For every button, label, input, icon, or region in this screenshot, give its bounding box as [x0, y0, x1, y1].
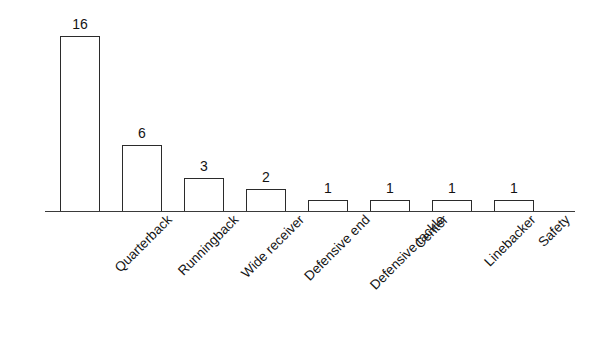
bar	[246, 189, 286, 211]
x-tick-label: Wide receiver	[238, 212, 307, 281]
x-tick-label: Quarterback	[112, 212, 175, 275]
bar-value-label: 16	[50, 17, 110, 31]
bar-value-label: 1	[360, 181, 420, 195]
bar	[60, 36, 100, 211]
bar-value-label: 6	[112, 126, 172, 140]
bar-value-label: 1	[422, 181, 482, 195]
bar-value-label: 1	[298, 181, 358, 195]
bar	[494, 200, 534, 211]
bar	[432, 200, 472, 211]
x-axis-tick-labels: QuarterbackRunningbackWide receiverDefen…	[0, 212, 593, 347]
bar-value-label: 3	[174, 159, 234, 173]
bar	[184, 178, 224, 211]
bar	[122, 145, 162, 211]
bar-chart: 166321111 QuarterbackRunningbackWide rec…	[0, 0, 593, 347]
bar	[308, 200, 348, 211]
bar-value-label: 2	[236, 170, 296, 184]
x-tick-label: Linebacker	[481, 212, 538, 269]
bar	[370, 200, 410, 211]
bar-value-label: 1	[484, 181, 544, 195]
plot-area: 166321111	[0, 0, 593, 212]
x-tick-label: Safety	[535, 212, 573, 250]
x-tick-label: Runningback	[175, 212, 241, 278]
x-tick-label: Defensive end	[301, 212, 373, 284]
